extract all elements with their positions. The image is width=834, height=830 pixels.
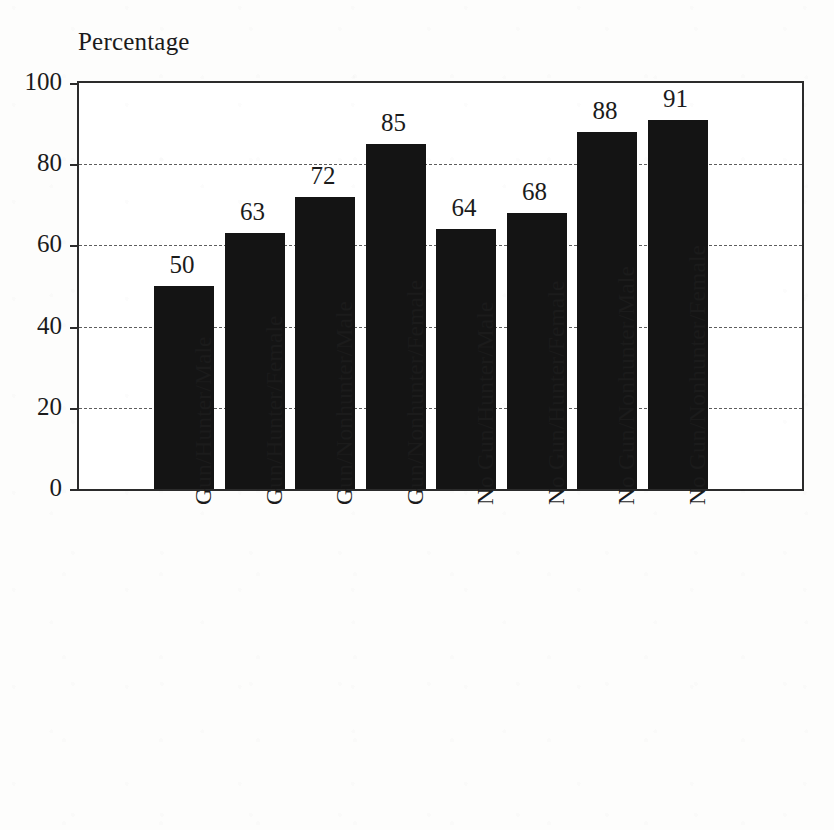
x-axis-category-label: Gun/Hunter/Male xyxy=(192,336,216,505)
y-axis-tick-mark xyxy=(70,164,79,166)
bar-value-label: 72 xyxy=(293,163,353,188)
x-axis-category-label: No Gun/Nonhunter/Male xyxy=(615,266,639,505)
bar-chart: Percentage 020406080100 5063728564688891… xyxy=(0,0,834,830)
y-axis-tick-labels: 020406080100 xyxy=(0,81,62,487)
bar-value-label: 68 xyxy=(505,179,565,204)
bar-value-label: 64 xyxy=(434,195,494,220)
bar-value-label: 88 xyxy=(575,98,635,123)
y-axis-tick-label: 80 xyxy=(37,150,62,175)
y-axis-tick-mark xyxy=(70,408,79,410)
bar-value-label: 63 xyxy=(223,199,283,224)
y-axis-tick-label: 20 xyxy=(37,394,62,419)
x-axis-category-label: Gun/Nonhunter/Male xyxy=(333,301,357,505)
y-axis-tick-label: 40 xyxy=(37,313,62,338)
x-axis-category-label: No Gun/Hunter/Male xyxy=(474,302,498,505)
y-axis-tick-mark xyxy=(70,245,79,247)
y-axis-tick-label: 60 xyxy=(37,231,62,256)
y-axis-tick-mark xyxy=(70,489,79,491)
bar-value-label: 85 xyxy=(364,110,424,135)
y-axis-tick-mark xyxy=(70,327,79,329)
y-axis-tick-mark xyxy=(70,83,79,85)
y-axis-label: Percentage xyxy=(78,27,190,57)
x-axis-category-label: Gun/Hunter/Female xyxy=(263,315,287,505)
x-axis-category-label: No Gun/Nonhunter/Female xyxy=(686,245,710,505)
y-axis-tick-label: 0 xyxy=(50,475,63,500)
x-axis-category-label: Gun/Nonhunter/Female xyxy=(404,280,428,505)
bar-value-label: 50 xyxy=(152,252,212,277)
bar-value-label: 91 xyxy=(646,86,706,111)
y-axis-tick-label: 100 xyxy=(25,69,63,94)
x-axis-category-label: No Gun/Hunter/Female xyxy=(545,280,569,505)
